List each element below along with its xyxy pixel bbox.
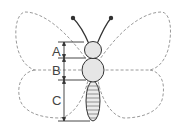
body xyxy=(82,42,104,122)
head xyxy=(85,42,102,59)
right-hindwing xyxy=(98,70,164,118)
antenna-tip-right xyxy=(109,16,112,19)
left-forewing xyxy=(16,12,88,70)
antenna-tip-left xyxy=(71,16,74,19)
label-c: C xyxy=(52,94,61,107)
thorax xyxy=(82,58,104,82)
label-b: B xyxy=(52,64,61,77)
label-a: A xyxy=(52,45,61,58)
butterfly-diagram xyxy=(0,0,182,136)
abdomen xyxy=(86,81,100,121)
antennae xyxy=(71,16,112,44)
